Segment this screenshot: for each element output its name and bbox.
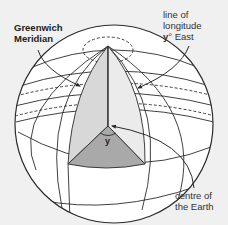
angle-label: y [105,136,110,146]
centre-of-earth-label: centre of the Earth [175,190,214,212]
greenwich-meridian-label: Greenwich Meridian [14,22,63,44]
longitude-label: line of longitude y° East [163,9,202,42]
